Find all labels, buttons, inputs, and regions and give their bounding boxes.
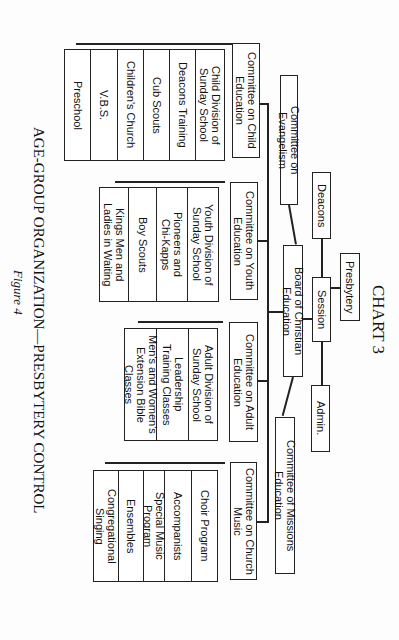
bracket <box>76 43 226 45</box>
node-board: Board of Christian Education <box>283 245 303 377</box>
connector <box>260 103 268 105</box>
node-evangelism: Committee on Evangelism <box>280 75 298 205</box>
child-item: Child Division of Sunday School <box>195 49 225 161</box>
child-item: Deacons Training <box>169 49 196 161</box>
node-presbytery-label: Presbytery <box>344 261 356 314</box>
connector <box>288 205 296 245</box>
adult-item: Leadership Training Classes <box>156 328 189 441</box>
connector <box>267 311 283 313</box>
node-missions: Committee of Missions Education <box>275 417 295 574</box>
item-label: Child Division of Sunday School <box>198 66 222 145</box>
node-admin-label: Admin. <box>315 401 327 435</box>
connector <box>330 287 340 289</box>
connector <box>225 43 232 45</box>
item-label: Men's and Women's Extension Bible Classe… <box>123 329 159 440</box>
node-missions-label: Committee of Missions Education <box>273 418 297 573</box>
caption: AGE-GROUP ORGANIZATION—PRESBYTERY CONTRO… <box>30 95 47 545</box>
connector <box>258 240 268 242</box>
connector <box>321 342 323 385</box>
committee-child-label: Committee on Child Education <box>234 52 258 149</box>
node-session-label: Session <box>316 290 328 329</box>
connector <box>258 380 268 382</box>
item-label: Accompanists <box>172 492 184 560</box>
youth-item: Boy Scouts <box>128 187 157 302</box>
connector <box>282 377 294 416</box>
figure-label: Figure 4 <box>10 270 26 315</box>
item-label: Children's Church <box>125 61 137 148</box>
bracket <box>115 181 225 183</box>
node-deacons-label: Deacons <box>316 184 328 227</box>
item-label: Congregational Singing <box>94 471 118 581</box>
committee-adult-label: Committee on Adult Education <box>232 334 256 430</box>
item-label: Adult Division of Sunday School <box>191 345 215 424</box>
node-admin: Admin. <box>311 385 330 452</box>
item-label: Deacons Training <box>177 62 189 148</box>
youth-item: Kings Men and Ladies in Waiting <box>99 187 129 302</box>
connector <box>257 521 268 523</box>
item-label: Ensembles <box>125 499 137 553</box>
node-evangelism-label: Committee on Evangelism <box>277 76 301 204</box>
child-item: Preschool <box>64 49 91 161</box>
item-label: Boy Scouts <box>137 217 149 273</box>
connector <box>267 103 269 523</box>
child-item: Cub Scouts <box>143 49 170 161</box>
item-label: Special Music Program <box>142 471 166 581</box>
youth-item: Pioneers and Chi-Kapps <box>156 187 188 302</box>
item-label: V.B.S. <box>98 90 110 120</box>
item-label: Pioneers and Chi-Kapps <box>160 212 184 277</box>
music-item: Congregational Singing <box>93 470 119 582</box>
child-item: V.B.S. <box>90 49 118 161</box>
item-label: Preschool <box>72 81 84 130</box>
bracket <box>138 321 223 323</box>
bracket <box>105 462 225 464</box>
music-item: Ensembles <box>118 470 144 582</box>
chart-title: CHART 3 <box>368 285 388 354</box>
adult-item: Men's and Women's Extension Bible Classe… <box>124 328 157 441</box>
music-item: Accompanists <box>164 470 192 582</box>
youth-item: Youth Division of Sunday School <box>187 187 219 302</box>
committee-youth-label: Committee on Youth Education <box>232 191 256 290</box>
committee-youth: Committee on Youth Education <box>230 182 258 300</box>
item-label: Kings Men and Ladies in Waiting <box>102 203 126 286</box>
item-label: Leadership Training Classes <box>161 344 185 426</box>
item-label: Cub Scouts <box>151 77 163 134</box>
item-label: Choir Program <box>199 490 211 562</box>
node-board-label: Board of Christian Education <box>281 246 305 376</box>
child-item: Children's Church <box>117 49 144 161</box>
connector <box>321 239 323 277</box>
committee-music-label: Committee on Church Music <box>232 468 256 575</box>
node-presbytery: Presbytery <box>340 253 360 321</box>
item-label: Youth Division of Sunday School <box>191 204 215 286</box>
node-session: Session <box>312 277 331 342</box>
adult-item: Adult Division of Sunday School <box>188 328 218 441</box>
node-deacons: Deacons <box>312 172 331 239</box>
committee-adult: Committee on Adult Education <box>229 322 258 442</box>
music-item: Special Music Program <box>143 470 165 582</box>
committee-music: Committee on Church Music <box>230 462 257 580</box>
music-item: Choir Program <box>191 470 218 582</box>
committee-child: Committee on Child Education <box>232 43 260 158</box>
